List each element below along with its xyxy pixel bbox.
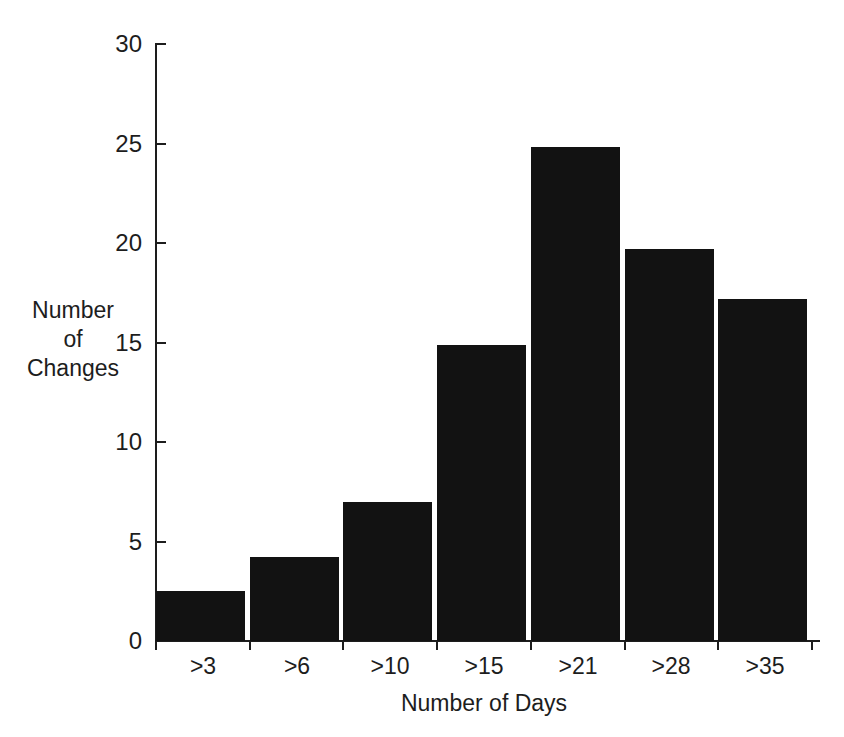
- bar: [718, 299, 807, 641]
- x-axis-tick-label: >35: [720, 653, 810, 680]
- x-axis-tick-label: >6: [252, 653, 342, 680]
- bar: [250, 557, 339, 641]
- bar: [156, 591, 245, 641]
- x-axis-title: Number of Days: [156, 690, 812, 717]
- plot-area: [156, 44, 812, 641]
- x-axis-tick: [155, 641, 157, 650]
- y-axis-tick-label: 0: [82, 629, 142, 653]
- bar: [437, 345, 526, 642]
- y-axis-title: NumberofChanges: [14, 296, 132, 383]
- x-axis-tick: [342, 641, 344, 650]
- bar: [531, 147, 620, 641]
- y-axis-tick-label: 10: [82, 430, 142, 454]
- x-axis-tick: [811, 641, 813, 650]
- x-axis-tick: [717, 641, 719, 650]
- x-axis-tick-label: >3: [158, 653, 248, 680]
- x-axis-tick: [436, 641, 438, 650]
- y-axis-tick-label: 25: [82, 132, 142, 156]
- bar: [343, 502, 432, 641]
- x-axis-tick-label: >10: [345, 653, 435, 680]
- bar: [625, 249, 714, 641]
- y-axis-title-line: Number: [14, 296, 132, 325]
- x-axis-tick: [530, 641, 532, 650]
- y-axis-tick-label: 30: [82, 32, 142, 56]
- y-axis-title-line: Changes: [14, 354, 132, 383]
- y-axis-title-line: of: [14, 325, 132, 354]
- x-axis-tick: [624, 641, 626, 650]
- y-axis-tick-label: 5: [82, 530, 142, 554]
- x-axis-tick: [249, 641, 251, 650]
- x-axis-tick-label: >28: [626, 653, 716, 680]
- bar-chart-figure: 051015202530 >3>6>10>15>21>28>35 Numbero…: [0, 0, 844, 737]
- x-axis-tick-label: >15: [439, 653, 529, 680]
- y-axis-tick-label: 20: [82, 231, 142, 255]
- x-axis-tick-label: >21: [533, 653, 623, 680]
